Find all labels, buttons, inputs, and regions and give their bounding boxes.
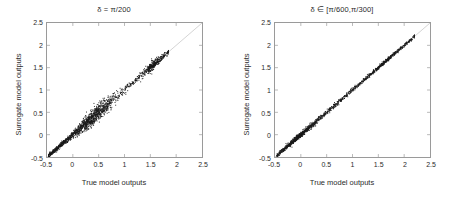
y-tick-label: 1.5	[261, 64, 271, 71]
x-tick-label: 1	[123, 161, 127, 168]
y-tick-label: 2	[39, 41, 43, 48]
plot-title-left: δ = π/200	[0, 5, 228, 14]
x-tick-label: 1.5	[374, 161, 384, 168]
figure-canvas: δ = π/200 -0.500.511.522.5 -0.500.511.52…	[0, 0, 456, 198]
y-tick-label: 0.5	[261, 109, 271, 116]
y-axis-label-right: Surrogate model outputs	[242, 36, 251, 154]
y-tick-label: 2.5	[261, 19, 271, 26]
y-tick-label: 1	[39, 87, 43, 94]
x-tick-label: 1	[351, 161, 355, 168]
y-tick-label: 2.5	[33, 19, 43, 26]
plot-panel-left: δ = π/200 -0.500.511.522.5 -0.500.511.52…	[0, 0, 228, 198]
x-tick-label: 2	[403, 161, 407, 168]
x-tick-label: 0	[70, 161, 74, 168]
x-tick-label: 1.5	[146, 161, 156, 168]
x-axis-label-left: True model outputs	[0, 178, 228, 187]
x-tick-label: -0.5	[40, 161, 52, 168]
scatter-points	[277, 35, 415, 157]
plot-title-right: δ ∈ [π/600,π/300]	[228, 5, 456, 14]
y-tick-label: 0	[39, 132, 43, 139]
axes-box-left	[46, 22, 203, 158]
scatter-plot-left	[47, 23, 202, 157]
plot-panel-right: δ ∈ [π/600,π/300] -0.500.511.522.5 -0.50…	[228, 0, 456, 198]
x-tick-label: 2.5	[426, 161, 436, 168]
x-tick-label: 2	[175, 161, 179, 168]
axes-box-right	[274, 22, 431, 158]
y-tick-label: 1	[267, 87, 271, 94]
y-axis-label-left: Surrogate model outputs	[14, 36, 23, 154]
y-tick-label: 2	[267, 41, 271, 48]
x-tick-label: -0.5	[268, 161, 280, 168]
y-tick-label: 0.5	[33, 109, 43, 116]
x-tick-label: 0.5	[93, 161, 103, 168]
y-tick-label: 1.5	[33, 64, 43, 71]
scatter-plot-right	[275, 23, 430, 157]
x-tick-labels-left: -0.500.511.522.5	[46, 161, 203, 173]
x-tick-label: 0	[298, 161, 302, 168]
x-tick-label: 0.5	[321, 161, 331, 168]
scatter-points	[48, 50, 169, 157]
y-tick-label: 0	[267, 132, 271, 139]
x-tick-labels-right: -0.500.511.522.5	[274, 161, 431, 173]
x-tick-label: 2.5	[198, 161, 208, 168]
x-axis-label-right: True model outputs	[228, 178, 456, 187]
